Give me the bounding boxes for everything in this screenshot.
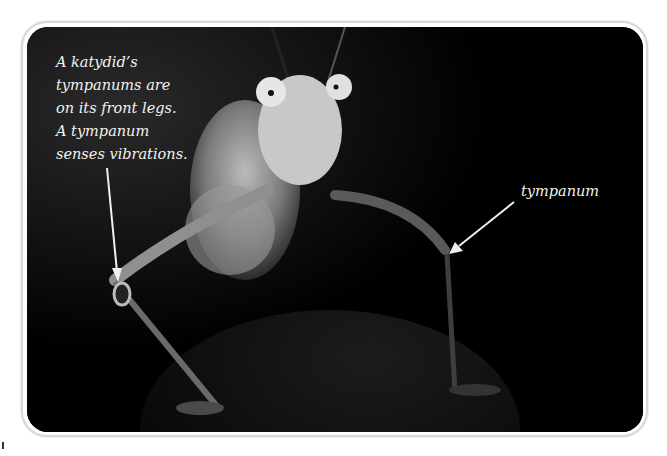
page-mark bbox=[2, 442, 4, 449]
figure-caption: A katydid’s tympanums are on its front l… bbox=[56, 51, 246, 166]
tympanum-label: tympanum bbox=[521, 183, 599, 199]
